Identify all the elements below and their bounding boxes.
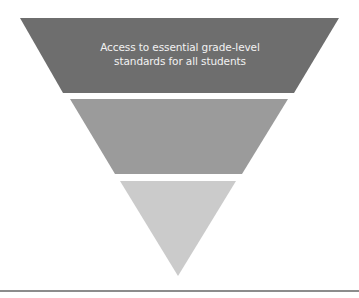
pyramid-tier-2 (70, 99, 288, 174)
tier-1-label-line-1: Access to essential grade-level (80, 40, 280, 54)
pyramid-tier-3 (120, 181, 236, 276)
tier-1-label-line-2: standards for all students (80, 54, 280, 68)
tier-1-label: Access to essential grade-level standard… (80, 40, 280, 68)
bottom-divider-line (0, 290, 359, 292)
